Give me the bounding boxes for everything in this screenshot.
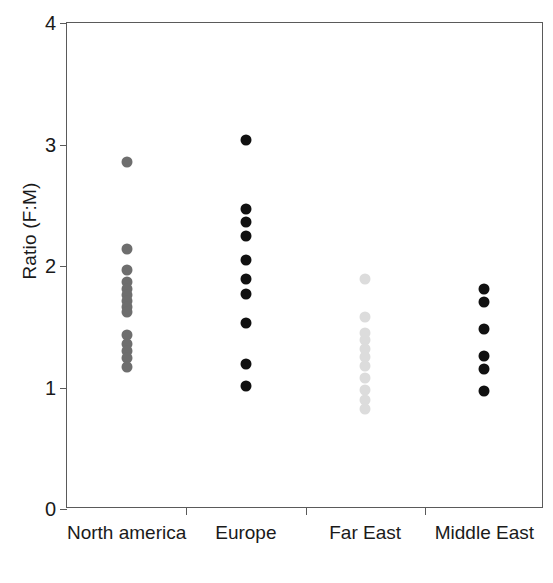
data-point	[240, 381, 251, 392]
data-point	[121, 361, 132, 372]
x-axis-category-label: Far East	[300, 521, 430, 544]
data-point	[240, 230, 251, 241]
data-point	[479, 350, 490, 361]
y-axis-tick-label: 3	[45, 135, 56, 155]
data-point	[240, 288, 251, 299]
data-point	[360, 312, 371, 323]
data-point	[360, 372, 371, 383]
data-point	[479, 364, 490, 375]
y-axis-title: Ratio (F:M)	[19, 141, 41, 321]
data-point	[479, 324, 490, 335]
data-point	[240, 254, 251, 265]
data-point	[240, 134, 251, 145]
y-axis-tick	[60, 23, 67, 24]
y-axis-tick	[60, 388, 67, 389]
data-point	[360, 274, 371, 285]
data-point	[240, 203, 251, 214]
y-axis-tick	[60, 266, 67, 267]
data-point	[240, 274, 251, 285]
data-point	[360, 360, 371, 371]
x-axis-tick	[425, 507, 426, 515]
data-point	[479, 284, 490, 295]
y-axis-tick-label: 0	[45, 499, 56, 519]
data-point	[121, 156, 132, 167]
x-axis-category-label: Europe	[181, 521, 311, 544]
x-axis-tick	[306, 507, 307, 515]
data-point	[240, 318, 251, 329]
x-axis-category-label: Middle East	[419, 521, 549, 544]
y-axis-tick-label: 2	[45, 256, 56, 276]
y-axis-tick-label: 1	[45, 378, 56, 398]
y-axis-tick	[60, 509, 67, 510]
scatter-plot-figure: Ratio (F:M) 01234 North americaEuropeFar…	[0, 0, 553, 583]
data-point	[121, 307, 132, 318]
plot-area: 01234 North americaEuropeFar EastMiddle …	[66, 22, 543, 508]
x-axis-category-label: North america	[62, 521, 192, 544]
data-point	[240, 217, 251, 228]
x-axis-tick	[186, 507, 187, 515]
data-point	[479, 297, 490, 308]
y-axis-tick	[60, 145, 67, 146]
data-point	[121, 243, 132, 254]
data-point	[121, 264, 132, 275]
y-axis-tick-label: 4	[45, 13, 56, 33]
data-point	[479, 386, 490, 397]
data-point	[360, 404, 371, 415]
data-point	[240, 359, 251, 370]
